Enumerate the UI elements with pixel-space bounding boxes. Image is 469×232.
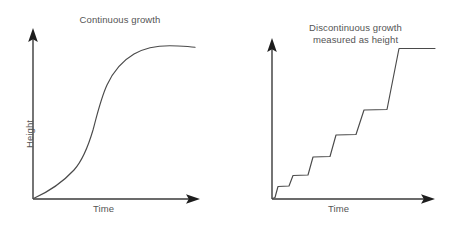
y-axis-label-left: Height (24, 120, 35, 148)
growth-comparison-figure: Continuous growth Height Time Discontinu… (0, 0, 469, 232)
discontinuous-growth-plot (235, 0, 469, 232)
continuous-growth-curve (34, 46, 196, 199)
x-axis-label-left: Time (93, 203, 114, 214)
discontinuous-growth-curve (273, 49, 436, 199)
panel-continuous-growth: Continuous growth Height Time (0, 0, 235, 232)
continuous-growth-plot (0, 0, 235, 232)
panel-discontinuous-growth: Discontinuous growth measured as height … (235, 0, 469, 232)
x-axis-label-right: Time (328, 203, 349, 214)
